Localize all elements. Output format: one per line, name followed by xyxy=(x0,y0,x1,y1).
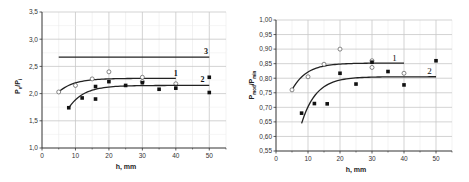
data-point-filled-square xyxy=(300,111,304,115)
right-chart: 010203040500,550,600,650,700,750,800,850… xyxy=(248,16,452,174)
curve-label-2: 2 xyxy=(427,66,432,76)
data-point-filled-square xyxy=(141,81,145,85)
x-tick-label: 30 xyxy=(368,155,376,162)
curve-label-1: 1 xyxy=(174,69,178,78)
data-point-filled-square xyxy=(402,83,406,87)
data-point-filled-square xyxy=(338,71,342,75)
data-point-filled-square xyxy=(370,60,374,64)
data-point-filled-square xyxy=(174,86,178,90)
series-2 xyxy=(300,59,438,123)
x-tick-label: 0 xyxy=(40,152,44,159)
x-tick-label: 0 xyxy=(274,155,278,162)
x-tick-label: 20 xyxy=(336,155,344,162)
data-point-filled-square xyxy=(124,84,128,88)
data-point-filled-square xyxy=(207,91,211,95)
left-chart: 010203040501,01,52,02,53,03,5h, mmPe/Pi1… xyxy=(14,8,226,171)
x-tick-label: 10 xyxy=(304,155,312,162)
data-point-filled-square xyxy=(107,80,111,84)
y-tick-label: 0,95 xyxy=(259,31,272,38)
data-point-open-circle xyxy=(90,77,94,81)
data-point-open-circle xyxy=(290,88,294,92)
data-point-open-circle xyxy=(322,62,326,66)
curve-label-3: 3 xyxy=(204,47,208,56)
y-axis-title: Pe/Pi xyxy=(14,79,23,94)
data-point-open-circle xyxy=(402,71,406,75)
y-axis-title: Pmod/Pmin xyxy=(248,70,257,99)
data-point-filled-square xyxy=(325,102,329,106)
data-point-open-circle xyxy=(370,65,374,69)
y-tick-label: 0,90 xyxy=(259,45,272,52)
data-point-filled-square xyxy=(157,87,161,91)
data-point-filled-square xyxy=(354,82,358,86)
y-tick-label: 2,5 xyxy=(29,63,38,70)
grid xyxy=(276,20,452,151)
x-tick-label: 30 xyxy=(139,152,147,159)
x-axis-title: h, mm xyxy=(116,163,137,171)
y-tick-label: 0,65 xyxy=(259,118,272,125)
data-point-open-circle xyxy=(306,75,310,79)
x-tick-label: 20 xyxy=(105,152,113,159)
data-point-filled-square xyxy=(80,96,84,100)
y-tick-label: 2,0 xyxy=(29,90,38,97)
x-tick-label: 50 xyxy=(432,155,440,162)
x-tick-label: 50 xyxy=(206,152,214,159)
curve-label-2: 2 xyxy=(201,75,205,84)
y-tick-label: 3,0 xyxy=(29,36,38,43)
y-tick-label: 0,80 xyxy=(259,75,272,82)
grid xyxy=(42,12,226,148)
y-tick-label: 3,5 xyxy=(29,8,38,15)
x-axis-title: h, mm xyxy=(346,166,367,174)
y-tick-label: 0,70 xyxy=(259,104,272,111)
fit-curve-2 xyxy=(302,77,436,124)
y-tick-label: 0,60 xyxy=(259,133,272,140)
data-point-filled-square xyxy=(434,59,438,63)
y-tick-label: 1,0 xyxy=(29,144,38,151)
series-1 xyxy=(290,47,406,92)
y-tick-label: 0,75 xyxy=(259,89,272,96)
y-tick-label: 1,5 xyxy=(29,117,38,124)
y-tick-label: 1,00 xyxy=(259,16,272,23)
fit-curve-2 xyxy=(69,85,210,107)
data-point-open-circle xyxy=(338,47,342,51)
y-tick-label: 0,85 xyxy=(259,60,272,67)
data-point-filled-square xyxy=(94,97,98,101)
data-point-filled-square xyxy=(386,70,390,74)
data-point-filled-square xyxy=(207,75,211,79)
x-tick-label: 40 xyxy=(400,155,408,162)
data-point-open-circle xyxy=(140,75,144,79)
x-tick-label: 10 xyxy=(72,152,80,159)
data-point-open-circle xyxy=(107,70,111,74)
data-point-open-circle xyxy=(73,83,77,87)
data-point-filled-square xyxy=(94,85,98,89)
data-point-open-circle xyxy=(57,90,61,94)
curve-label-1: 1 xyxy=(392,53,397,63)
y-tick-label: 0,55 xyxy=(259,147,272,154)
x-tick-label: 40 xyxy=(172,152,180,159)
data-point-filled-square xyxy=(313,102,317,106)
data-point-filled-square xyxy=(67,106,71,110)
